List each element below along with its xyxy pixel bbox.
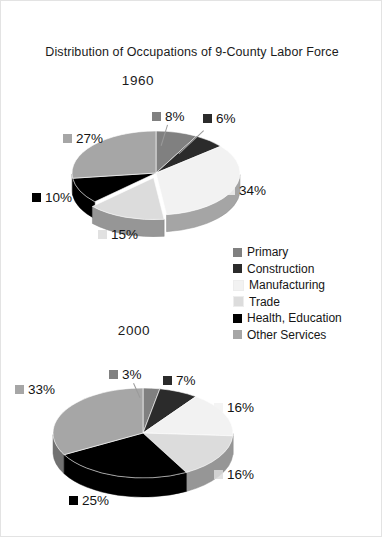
legend-swatch-construction <box>233 264 242 273</box>
data-label-text: 6% <box>216 111 236 126</box>
data-label-1960-construction: 6% <box>203 111 236 126</box>
data-label-text: 7% <box>176 373 196 388</box>
data-label-text: 8% <box>165 109 185 124</box>
legend-label: Construction <box>247 263 314 275</box>
data-label-text: 16% <box>227 467 254 482</box>
data-label-text: 3% <box>122 367 142 382</box>
legend-item-construction[interactable]: Construction <box>233 261 342 278</box>
swatch-other-services <box>15 385 24 394</box>
data-label-text: 15% <box>111 227 138 242</box>
data-label-1960-other-services: 27% <box>63 131 103 146</box>
swatch-primary <box>152 112 161 121</box>
swatch-manufacturing <box>226 186 235 195</box>
data-label-1960-primary: 8% <box>152 109 185 124</box>
data-label-text: 34% <box>239 183 266 198</box>
data-label-2000-other-services: 33% <box>15 382 55 397</box>
swatch-health-education <box>69 496 78 505</box>
legend-swatch-primary <box>233 248 242 257</box>
legend-swatch-manufacturing <box>233 280 244 291</box>
data-label-text: 10% <box>45 190 72 205</box>
legend-label: Trade <box>249 296 280 308</box>
swatch-other-services <box>63 134 72 143</box>
swatch-construction <box>163 376 172 385</box>
data-label-text: 33% <box>28 382 55 397</box>
data-label-2000-trade: 16% <box>214 467 254 482</box>
legend-swatch-health-education <box>233 314 242 323</box>
data-label-2000-primary: 3% <box>109 367 142 382</box>
swatch-trade <box>98 230 107 239</box>
data-label-1960-manufacturing: 34% <box>226 183 266 198</box>
chart-title-2000: 2000 <box>0 323 325 338</box>
legend-item-primary[interactable]: Primary <box>233 244 342 261</box>
data-label-text: 25% <box>82 493 109 508</box>
data-label-text: 16% <box>227 400 254 415</box>
data-label-2000-construction: 7% <box>163 373 196 388</box>
swatch-trade <box>214 470 223 479</box>
data-label-2000-manufacturing: 16% <box>214 400 254 415</box>
data-label-2000-health-education: 25% <box>69 493 109 508</box>
swatch-primary <box>109 370 118 379</box>
swatch-manufacturing <box>214 403 223 412</box>
legend-label: Manufacturing <box>249 279 325 291</box>
swatch-health-education <box>32 193 41 202</box>
chart-title-1960: 1960 <box>0 73 329 88</box>
data-label-1960-trade: 15% <box>98 227 138 242</box>
pie-2000-svg <box>39 379 251 504</box>
swatch-construction <box>203 114 212 123</box>
legend-item-trade[interactable]: Trade <box>233 294 342 311</box>
legend-label: Primary <box>247 246 288 258</box>
pie-chart-figure: Distribution of Occupations of 9-County … <box>0 0 382 537</box>
data-label-1960-health-education: 10% <box>32 190 72 205</box>
pie-chart-2000 <box>39 379 251 504</box>
figure-title: Distribution of Occupations of 9-County … <box>1 45 382 59</box>
legend-swatch-trade <box>233 296 244 307</box>
data-label-text: 27% <box>76 131 103 146</box>
legend-item-manufacturing[interactable]: Manufacturing <box>233 277 342 294</box>
